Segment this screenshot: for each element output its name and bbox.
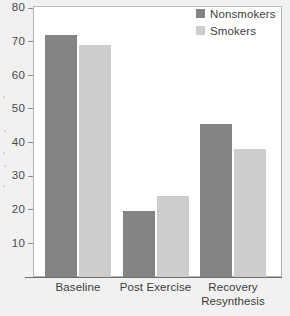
x-axis-label-line: Recovery	[178, 281, 288, 295]
bar-smokers-recovery-resynthesis	[234, 149, 266, 277]
legend-item-label: Smokers	[210, 25, 256, 37]
bar-chart-figure: 1020304050607080 BaselinePost ExerciseRe…	[0, 0, 290, 316]
bar-nonsmokers-recovery-resynthesis	[200, 124, 232, 277]
legend-item-smokers: Smokers	[196, 23, 284, 38]
chart-legend: NonsmokersSmokers	[196, 6, 284, 40]
legend-swatch-icon	[196, 9, 205, 18]
legend-item-label: Nonsmokers	[210, 8, 276, 20]
bar-nonsmokers-baseline	[45, 35, 77, 277]
x-axis-label-recovery-resynthesis: RecoveryResynthesis	[178, 281, 288, 308]
bar-smokers-post-exercise	[157, 196, 189, 277]
bars-layer	[0, 0, 290, 316]
x-axis-label-line: Resynthesis	[178, 295, 288, 309]
bar-nonsmokers-post-exercise	[123, 211, 155, 277]
legend-swatch-icon	[196, 26, 205, 35]
bar-smokers-baseline	[79, 45, 111, 277]
legend-item-nonsmokers: Nonsmokers	[196, 6, 284, 21]
x-axis-labels: BaselinePost ExerciseRecoveryResynthesis	[0, 281, 290, 316]
